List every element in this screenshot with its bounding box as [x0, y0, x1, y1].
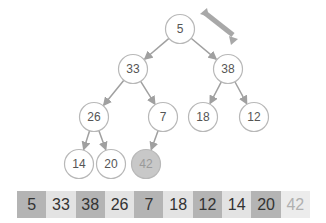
- array-cell: 20: [251, 191, 280, 218]
- node-value: 12: [247, 110, 261, 124]
- tree-node: 5: [166, 15, 195, 44]
- array-cell: 14: [222, 191, 251, 218]
- node-value: 7: [160, 110, 167, 124]
- tree-edges: [84, 38, 247, 149]
- tree-node: 20: [97, 150, 126, 179]
- array-cell: 12: [193, 191, 222, 218]
- tree-edge: [141, 81, 155, 104]
- swap-arrow-icon: [200, 8, 238, 45]
- tree-edge: [99, 131, 106, 150]
- tree-edge: [235, 82, 247, 104]
- node-value: 26: [87, 110, 101, 124]
- tree-node: 18: [189, 103, 218, 132]
- tree-edge: [151, 131, 158, 150]
- tree-edge: [191, 38, 216, 59]
- tree-node: 12: [240, 103, 269, 132]
- node-value: 18: [196, 110, 210, 124]
- node-value: 33: [126, 62, 140, 76]
- tree-node: 38: [214, 55, 243, 84]
- tree-node: 7: [149, 103, 178, 132]
- array-cell: 33: [46, 191, 75, 218]
- tree-node: 26: [80, 103, 109, 132]
- node-value: 38: [221, 62, 235, 76]
- tree-nodes: 533382671812142042: [65, 15, 269, 179]
- heap-array: 533382671812142042: [17, 191, 310, 218]
- tree-node: 14: [65, 150, 94, 179]
- array-cell: 26: [105, 191, 134, 218]
- node-value: 42: [139, 157, 153, 171]
- array-cell: 5: [17, 191, 46, 218]
- array-cell: 38: [76, 191, 105, 218]
- array-cell: 7: [134, 191, 163, 218]
- tree-edge: [210, 82, 221, 103]
- node-value: 14: [72, 157, 86, 171]
- array-cell: 18: [163, 191, 192, 218]
- tree-edge: [145, 38, 169, 59]
- array-cell: 42: [281, 191, 310, 218]
- tree-edge: [84, 131, 90, 149]
- node-value: 5: [177, 22, 184, 36]
- tree-node: 42: [132, 150, 161, 179]
- heap-tree: 533382671812142042: [0, 0, 326, 185]
- tree-node: 33: [119, 55, 148, 84]
- tree-edge: [104, 80, 124, 105]
- node-value: 20: [104, 157, 118, 171]
